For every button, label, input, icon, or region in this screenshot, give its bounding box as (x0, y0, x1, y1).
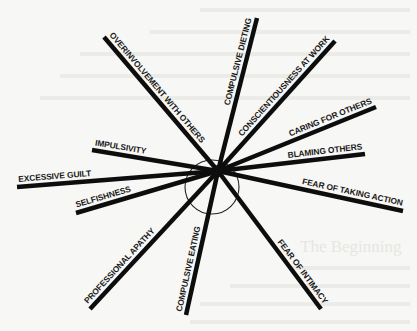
label-professional-apathy: PROFESSIONAL APATHY (82, 225, 157, 305)
label-overinvolvement-with-others: OVERINVOLVEMENT WITH OTHERS (108, 30, 208, 145)
label-caring-for-others: CARING FOR OTHERS (287, 95, 373, 138)
spoke-diagram: The Beginning OVERINVOLVEMENT WITH OTHER… (0, 0, 417, 331)
spoke-impulsivity (92, 150, 218, 171)
ghost-heading: The Beginning (300, 237, 402, 256)
spokes (17, 18, 403, 315)
hub (212, 165, 224, 177)
